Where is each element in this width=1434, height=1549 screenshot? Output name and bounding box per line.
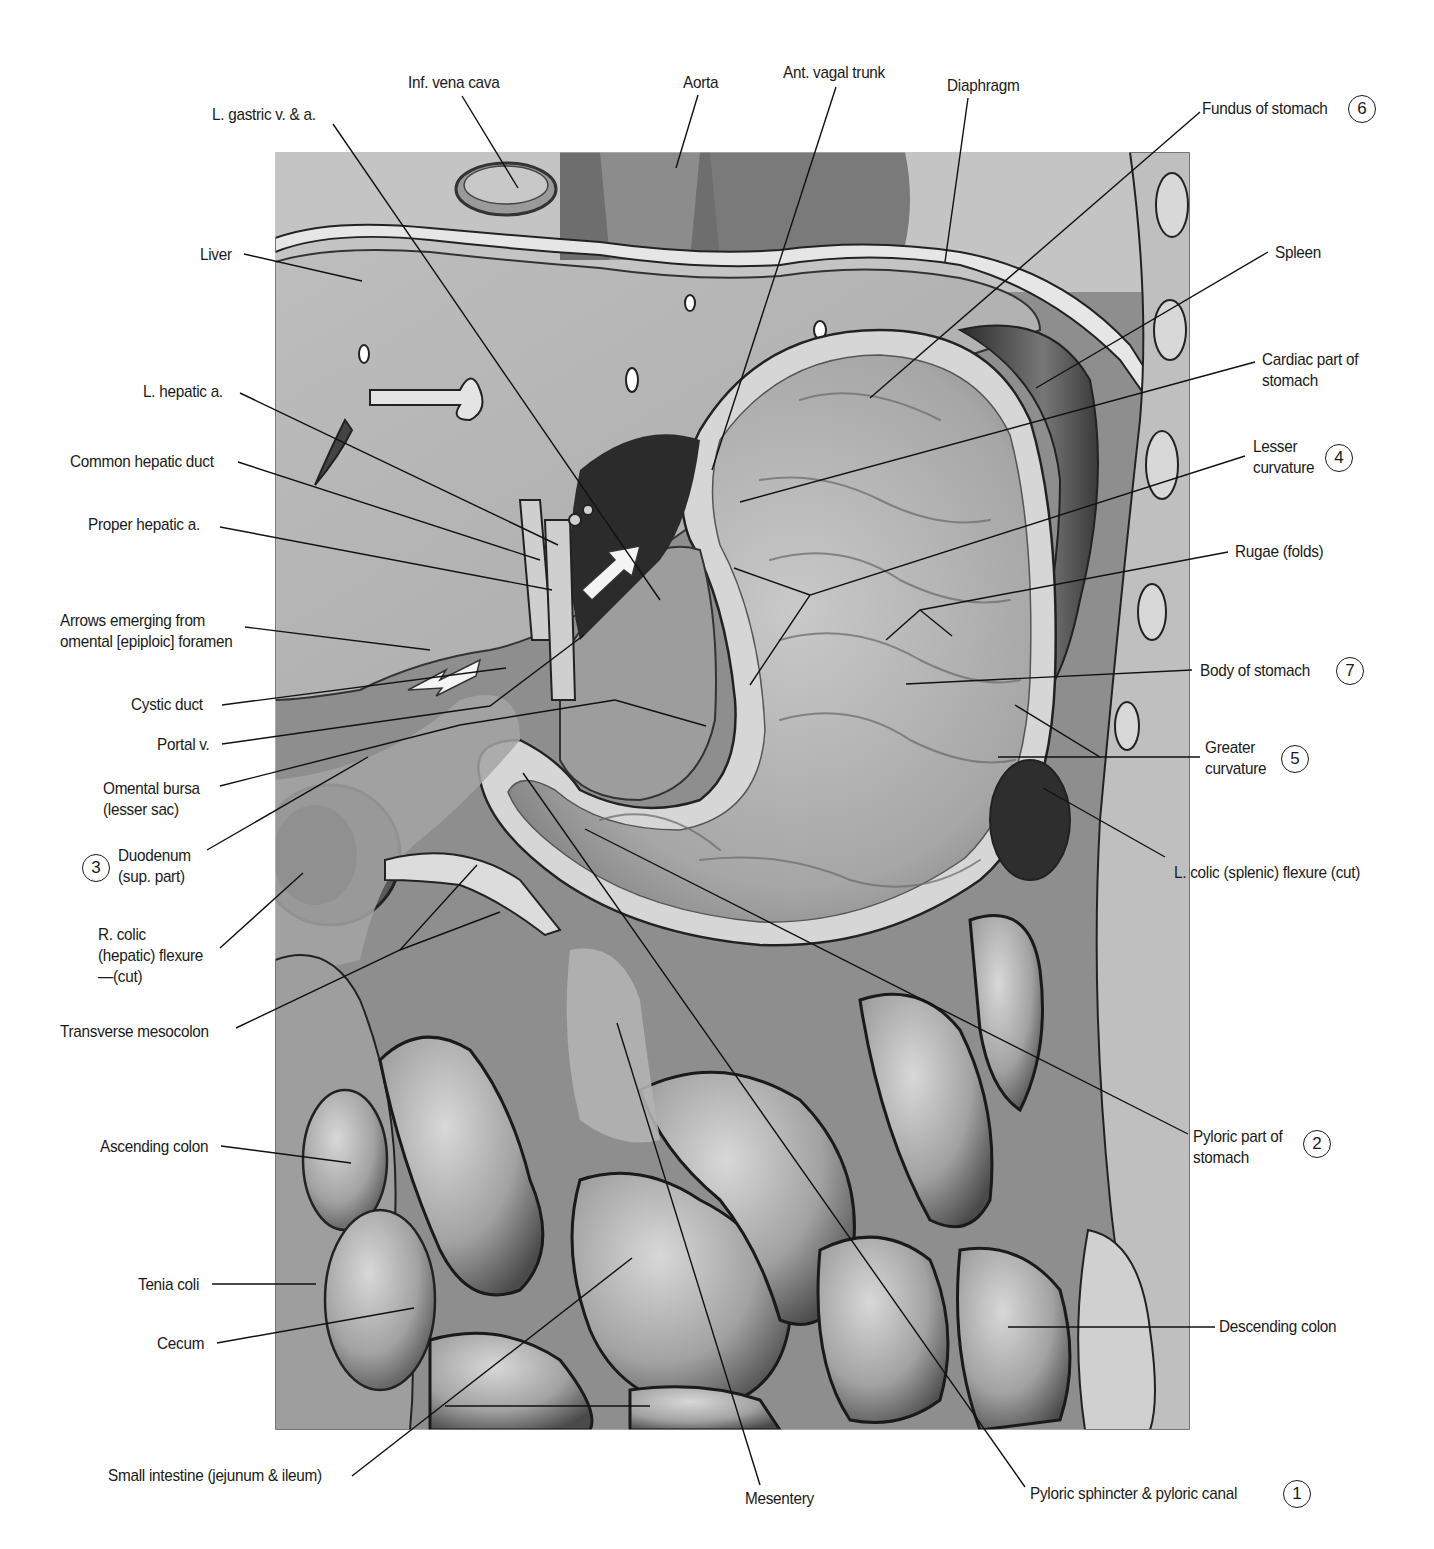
illustration-body xyxy=(260,152,1190,1430)
circled-number-4: 4 xyxy=(1325,444,1353,472)
label-r-colic: R. colic (hepatic) flexure —(cut) xyxy=(98,924,203,987)
label-tenia: Tenia coli xyxy=(138,1274,199,1295)
label-pyloric-sphincter: Pyloric sphincter & pyloric canal xyxy=(1030,1483,1237,1504)
label-l-hepatic: L. hepatic a. xyxy=(143,381,223,402)
label-liver: Liver xyxy=(200,244,232,265)
label-portal: Portal v. xyxy=(157,734,210,755)
label-l-gastric: L. gastric v. & a. xyxy=(212,104,316,125)
label-l-colic: L. colic (splenic) flexure (cut) xyxy=(1174,862,1360,883)
label-aorta: Aorta xyxy=(683,72,718,93)
label-proper-hepatic: Proper hepatic a. xyxy=(88,514,200,535)
label-diaphragm: Diaphragm xyxy=(947,75,1019,96)
label-ascending: Ascending colon xyxy=(100,1136,208,1157)
label-greater: Greater curvature xyxy=(1205,737,1266,779)
label-cardiac: Cardiac part of stomach xyxy=(1262,349,1358,391)
label-duodenum: Duodenum (sup. part) xyxy=(118,845,191,887)
label-ivc: Inf. vena cava xyxy=(408,72,499,93)
circled-number-7: 7 xyxy=(1336,657,1364,685)
label-omental-bursa: Omental bursa (lesser sac) xyxy=(103,778,200,820)
circled-number-2: 2 xyxy=(1303,1130,1331,1158)
circled-number-3: 3 xyxy=(82,854,110,882)
label-arrows: Arrows emerging from omental [epiploic] … xyxy=(60,610,232,652)
label-mesentery: Mesentery xyxy=(745,1488,814,1509)
label-rugae: Rugae (folds) xyxy=(1235,541,1323,562)
label-spleen: Spleen xyxy=(1275,242,1321,263)
label-fundus: Fundus of stomach xyxy=(1202,98,1328,119)
label-transverse-meso: Transverse mesocolon xyxy=(60,1021,209,1042)
circled-number-5: 5 xyxy=(1281,745,1309,773)
label-ant-vagal: Ant. vagal trunk xyxy=(783,62,885,83)
label-common-hepatic: Common hepatic duct xyxy=(70,451,214,472)
circled-number-6: 6 xyxy=(1348,95,1376,123)
label-cecum: Cecum xyxy=(157,1333,204,1354)
label-body: Body of stomach xyxy=(1200,660,1310,681)
label-pyloric-part: Pyloric part of stomach xyxy=(1193,1126,1282,1168)
label-lesser: Lesser curvature xyxy=(1253,436,1314,478)
label-small-int: Small intestine (jejunum & ileum) xyxy=(108,1465,322,1486)
circled-number-1: 1 xyxy=(1283,1480,1311,1508)
label-cystic: Cystic duct xyxy=(131,694,203,715)
label-descending: Descending colon xyxy=(1219,1316,1336,1337)
